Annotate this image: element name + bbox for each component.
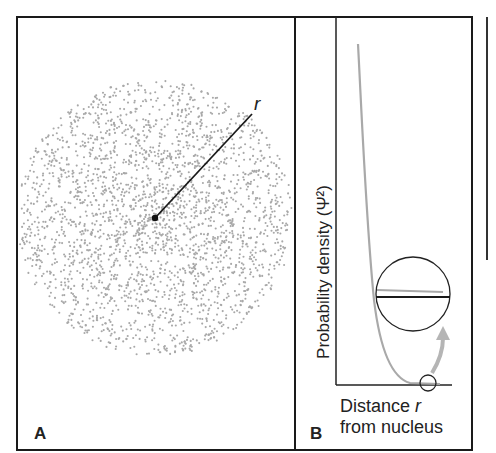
magnify-arrow (432, 338, 443, 373)
radius-label: r (254, 93, 260, 115)
x-axis-label: Distance r from nucleus (340, 396, 443, 438)
panel-b-letter: B (310, 424, 322, 444)
magnified-inset (376, 257, 450, 331)
x-axis-label-text: Distance (340, 396, 415, 416)
nucleus-dot (152, 215, 158, 221)
probability-curve (358, 44, 440, 384)
x-axis-variable: r (415, 396, 421, 416)
radius-line (155, 114, 252, 218)
y-axis-label: Probability density (Ψ²) (314, 162, 334, 382)
x-axis-label-line2: from nucleus (340, 417, 443, 437)
figure (0, 0, 496, 453)
panel-a-letter: A (34, 424, 46, 444)
arrow-head-icon (436, 326, 450, 340)
